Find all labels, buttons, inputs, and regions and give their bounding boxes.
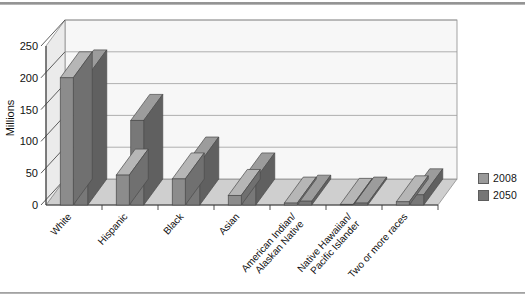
y-axis-tick-label: 50 xyxy=(26,167,38,179)
y-axis-tick-label: 100 xyxy=(20,135,38,147)
y-axis-tick-label: 250 xyxy=(20,40,38,52)
bar-front-face xyxy=(172,179,185,205)
bar-front-face xyxy=(116,175,129,205)
legend-item-label: 2008 xyxy=(493,173,517,184)
bar-front-face xyxy=(396,202,409,205)
x-axis-tick-label: White xyxy=(48,211,74,238)
legend-item-2008[interactable]: 2008 xyxy=(478,170,523,187)
y-axis-tick-label: 0 xyxy=(32,199,38,211)
bar-2008-0[interactable] xyxy=(60,52,92,205)
x-axis-label-group: American Indian/Alaskan Native xyxy=(239,211,306,282)
x-axis-label-group: Black xyxy=(161,210,186,236)
y-axis-tick-label: 200 xyxy=(20,72,38,84)
bar-side-face xyxy=(73,52,92,205)
x-axis-label-group: Hispanic xyxy=(96,211,130,247)
x-axis-tick-label: Black xyxy=(161,210,186,236)
bar-front-face xyxy=(228,195,241,205)
y-axis-title: Millions xyxy=(4,99,16,136)
bar-front-face xyxy=(284,203,297,205)
chart-canvas: 050100150200250MillionsWhiteHispanicBlac… xyxy=(0,0,525,299)
legend-item-label: 2050 xyxy=(493,190,517,201)
bar-chart: 050100150200250MillionsWhiteHispanicBlac… xyxy=(0,0,525,299)
bar-front-face xyxy=(299,201,312,205)
x-axis-tick-label: Hispanic xyxy=(96,211,130,247)
x-axis-label-group: Asian xyxy=(217,211,242,237)
legend-swatch-icon xyxy=(478,173,489,184)
legend-item-2050[interactable]: 2050 xyxy=(478,187,523,204)
legend-swatch-icon xyxy=(478,190,489,201)
chart-legend: 20082050 xyxy=(478,170,523,204)
bar-front-face xyxy=(60,78,73,205)
x-axis-tick-label: Asian xyxy=(217,211,242,237)
y-axis-tick-label: 150 xyxy=(20,104,38,116)
bar-front-face xyxy=(355,203,368,205)
x-axis-label-group: White xyxy=(48,211,74,238)
bar-front-face xyxy=(340,204,353,205)
